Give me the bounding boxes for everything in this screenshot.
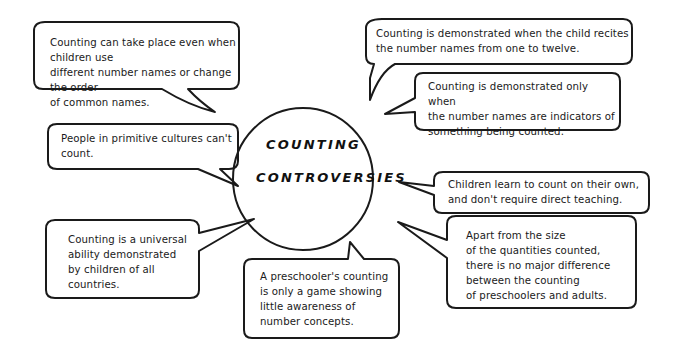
bubble-recites-names: Counting is demonstrated when the child … xyxy=(376,26,631,56)
center-title-line-1: COUNTING xyxy=(266,137,361,152)
bubble-primitive-cultures: People in primitive cultures can't count… xyxy=(61,131,236,161)
bubble-no-major-difference: Apart from the size of the quantities co… xyxy=(466,228,634,303)
bubble-different-names: Counting can take place even when childr… xyxy=(50,35,240,110)
bubble-universal-ability: Counting is a universal ability demonstr… xyxy=(68,232,198,292)
bubble-indicators: Counting is demonstrated only when the n… xyxy=(428,79,618,139)
center-title-line-2: CONTROVERSIES xyxy=(256,170,407,185)
bubble-preschooler-game: A preschooler's counting is only a game … xyxy=(260,269,398,329)
bubble-learn-on-own: Children learn to count on their own, an… xyxy=(448,177,648,207)
counting-controversies-diagram: COUNTING CONTROVERSIES Counting can take… xyxy=(0,0,679,357)
